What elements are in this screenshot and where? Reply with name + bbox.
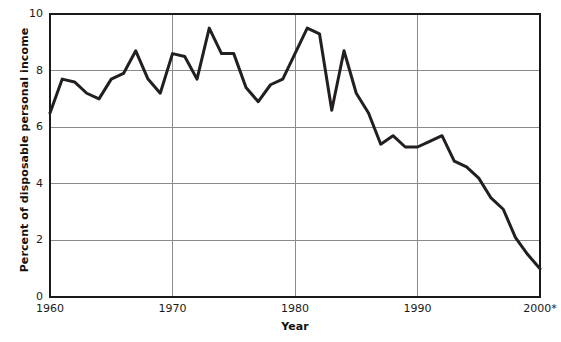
x-tick-label: 1980 xyxy=(265,302,325,315)
y-tick-label: 10 xyxy=(17,7,43,20)
x-tick-label: 2000* xyxy=(510,302,561,315)
x-axis-title: Year xyxy=(50,320,540,334)
y-tick-label: 6 xyxy=(17,120,43,133)
y-tick-label: 8 xyxy=(17,64,43,77)
y-axis-title: Percent of disposable personal income xyxy=(16,0,34,300)
x-tick-label: 1990 xyxy=(388,302,448,315)
x-tick-label: 1960 xyxy=(20,302,80,315)
x-tick-label: 1970 xyxy=(143,302,203,315)
y-tick-label: 2 xyxy=(17,233,43,246)
y-tick-label: 4 xyxy=(17,177,43,190)
